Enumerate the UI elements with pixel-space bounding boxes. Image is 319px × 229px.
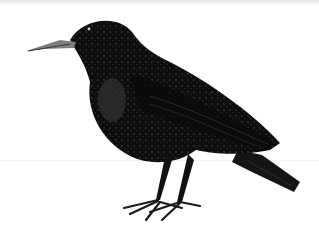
right-leg — [177, 154, 194, 202]
starling-illustration — [0, 0, 319, 229]
eye — [88, 28, 91, 31]
feet — [124, 200, 200, 220]
breast-speckle — [98, 78, 126, 122]
beak — [26, 40, 76, 51]
